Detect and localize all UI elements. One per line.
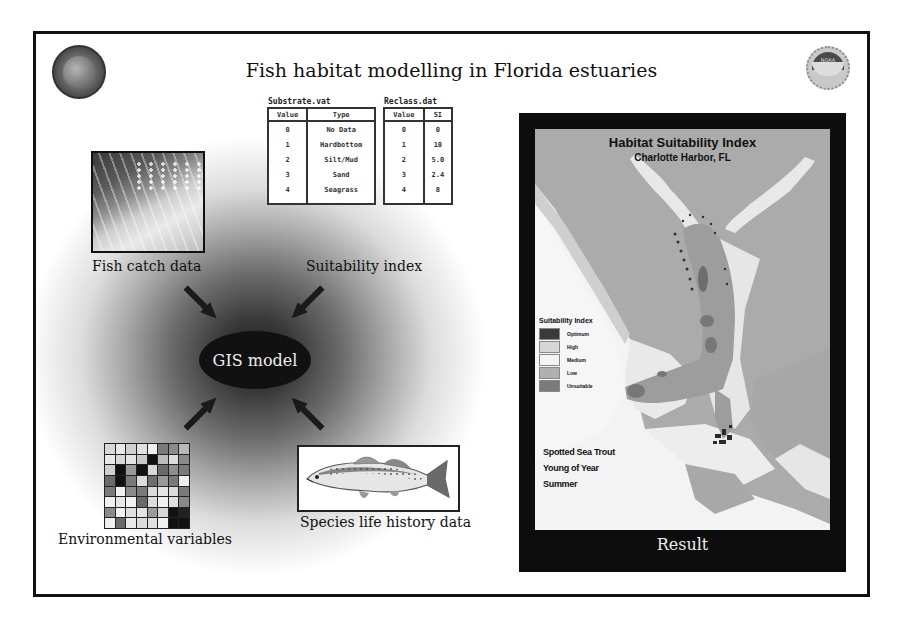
grid-cell bbox=[158, 455, 168, 465]
map-species-info: Spotted Sea Trout Young of Year Summer bbox=[543, 447, 615, 495]
grid-cell bbox=[137, 497, 147, 507]
grid-cell bbox=[105, 455, 115, 465]
grid-cell bbox=[116, 455, 126, 465]
table-row: 25.0 bbox=[384, 152, 452, 167]
result-caption: Result bbox=[519, 535, 846, 554]
grid-cell bbox=[158, 487, 168, 497]
grid-cell bbox=[126, 518, 136, 528]
grid-cell bbox=[169, 508, 179, 518]
grid-cell bbox=[126, 476, 136, 486]
grid-cell bbox=[179, 497, 189, 507]
grid-cell bbox=[105, 518, 115, 528]
species-life-history-label: Species life history data bbox=[300, 514, 471, 530]
environmental-variables-label: Environmental variables bbox=[58, 531, 232, 547]
grid-cell bbox=[126, 455, 136, 465]
species-fish-image bbox=[297, 445, 460, 512]
reclass-table-filename: Reclass.dat bbox=[384, 97, 437, 106]
grid-cell bbox=[148, 487, 158, 497]
grid-cell bbox=[126, 508, 136, 518]
legend-item-optimum: Optimum bbox=[539, 327, 593, 340]
grid-cell bbox=[126, 487, 136, 497]
legend-swatch bbox=[539, 380, 560, 392]
grid-cell bbox=[105, 465, 115, 475]
grid-cell bbox=[169, 476, 179, 486]
col-header: Value bbox=[268, 108, 307, 121]
legend-item-high: High bbox=[539, 340, 593, 353]
legend-item-medium: Medium bbox=[539, 353, 593, 366]
grid-cell bbox=[116, 518, 126, 528]
grid-cell bbox=[179, 455, 189, 465]
grid-cell bbox=[126, 497, 136, 507]
grid-cell bbox=[148, 476, 158, 486]
result-map-panel: Habitat Suitability Index Charlotte Harb… bbox=[519, 113, 846, 572]
grid-cell bbox=[179, 487, 189, 497]
table-row: 2Silt/Mud bbox=[268, 152, 375, 167]
grid-cell bbox=[148, 455, 158, 465]
table-row: 48 bbox=[384, 182, 452, 197]
habitat-suitability-map: Habitat Suitability Index Charlotte Harb… bbox=[535, 129, 830, 530]
grid-cell bbox=[158, 497, 168, 507]
grid-cell bbox=[116, 465, 126, 475]
grid-cell bbox=[179, 465, 189, 475]
legend-swatch bbox=[539, 341, 560, 353]
grid-cell bbox=[116, 508, 126, 518]
table-row: 3Sand bbox=[268, 167, 375, 182]
substrate-table: Value Type 0No Data 1Hardbottom 2Silt/Mu… bbox=[267, 107, 376, 205]
table-row: 0No Data bbox=[268, 121, 375, 137]
suitability-index-label: Suitability index bbox=[306, 258, 422, 274]
grid-cell bbox=[105, 508, 115, 518]
table-row: 110 bbox=[384, 137, 452, 152]
grid-cell bbox=[169, 487, 179, 497]
life-stage: Young of Year bbox=[543, 463, 615, 473]
grid-cell bbox=[179, 476, 189, 486]
grid-cell bbox=[105, 444, 115, 454]
grid-cell bbox=[148, 465, 158, 475]
legend-swatch bbox=[539, 367, 560, 379]
gis-model-node: GIS model bbox=[199, 331, 311, 389]
table-row: 32.4 bbox=[384, 167, 452, 182]
grid-cell bbox=[116, 487, 126, 497]
grid-cell bbox=[169, 518, 179, 528]
grid-cell bbox=[105, 497, 115, 507]
grid-cell bbox=[169, 444, 179, 454]
arrow-down-right-icon bbox=[180, 282, 221, 323]
grid-cell bbox=[158, 444, 168, 454]
table-row: 4Seagrass bbox=[268, 182, 375, 197]
map-subtitle: Charlotte Harbor, FL bbox=[535, 152, 830, 163]
grid-cell bbox=[137, 455, 147, 465]
species-name: Spotted Sea Trout bbox=[543, 447, 615, 457]
grid-cell bbox=[158, 465, 168, 475]
grid-cell bbox=[158, 476, 168, 486]
legend-swatch bbox=[539, 354, 560, 366]
grid-cell bbox=[116, 444, 126, 454]
grid-cell bbox=[126, 465, 136, 475]
grid-cell bbox=[137, 444, 147, 454]
col-header: SI bbox=[424, 108, 452, 121]
grid-cell bbox=[137, 476, 147, 486]
map-title-block: Habitat Suitability Index Charlotte Harb… bbox=[535, 135, 830, 163]
reclass-table: Value SI 00 110 25.0 32.4 48 bbox=[383, 107, 453, 205]
grid-cell bbox=[105, 476, 115, 486]
grid-cell bbox=[137, 508, 147, 518]
fish-catch-label: Fish catch data bbox=[92, 258, 201, 274]
grid-cell bbox=[179, 518, 189, 528]
grid-cell bbox=[169, 455, 179, 465]
grid-cell bbox=[137, 465, 147, 475]
grid-cell bbox=[148, 497, 158, 507]
grid-cell bbox=[105, 487, 115, 497]
grid-cell bbox=[158, 508, 168, 518]
grid-cell bbox=[116, 476, 126, 486]
grid-cell bbox=[148, 508, 158, 518]
fish-catch-photo bbox=[91, 151, 205, 253]
legend-swatch bbox=[539, 328, 560, 340]
arrow-down-left-icon bbox=[286, 282, 327, 323]
grid-cell bbox=[148, 444, 158, 454]
grid-cell bbox=[169, 465, 179, 475]
grid-cell bbox=[179, 444, 189, 454]
grid-cell bbox=[126, 444, 136, 454]
season: Summer bbox=[543, 479, 615, 489]
legend-item-unsuitable: Unsuitable bbox=[539, 379, 593, 392]
grid-cell bbox=[148, 518, 158, 528]
legend-title: Suitability Index bbox=[539, 317, 593, 324]
grid-cell bbox=[137, 518, 147, 528]
